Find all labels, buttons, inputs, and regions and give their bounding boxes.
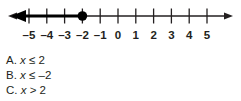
tick-label: 0 — [115, 29, 121, 41]
tick-label-group: –5 –4 –3 –2 –1 0 1 2 3 4 5 — [23, 29, 211, 41]
choice-variable: x — [20, 69, 26, 81]
tick-label: 3 — [168, 29, 174, 41]
choice-value: –2 — [39, 69, 52, 81]
tick-label: –1 — [94, 29, 107, 41]
choice-variable: x — [20, 54, 26, 66]
tick-label: –3 — [58, 29, 71, 41]
number-line-figure: –5 –4 –3 –2 –1 0 1 2 3 4 5 — [0, 0, 241, 46]
tick-label: –2 — [76, 29, 89, 41]
number-line-graphic: –5 –4 –3 –2 –1 0 1 2 3 4 5 — [0, 0, 241, 46]
choice-relation: ≤ — [29, 69, 35, 81]
tick-label: 2 — [150, 29, 156, 41]
closed-point-marker — [78, 11, 88, 21]
tick-label: –4 — [40, 29, 53, 41]
choice-letter: A. — [6, 54, 17, 66]
choice-letter: C. — [6, 84, 18, 96]
tick-label: 4 — [186, 29, 193, 41]
answer-choice-b[interactable]: B. x ≤ –2 — [6, 68, 236, 83]
choice-relation: ≤ — [29, 54, 35, 66]
tick-label: 5 — [204, 29, 211, 41]
answer-choice-c[interactable]: C. x > 2 — [6, 83, 236, 98]
axis-arrow-right-icon — [224, 12, 233, 19]
choice-letter: B. — [6, 69, 17, 81]
tick-label: –5 — [23, 29, 36, 41]
answer-choice-a[interactable]: A. x ≤ 2 — [6, 53, 236, 68]
choice-value: 2 — [40, 84, 46, 96]
tick-label: 1 — [133, 29, 140, 41]
choice-value: 2 — [39, 54, 45, 66]
choice-variable: x — [21, 84, 27, 96]
answer-choice-list: A. x ≤ 2 B. x ≤ –2 C. x > 2 — [6, 53, 236, 99]
choice-relation: > — [30, 84, 37, 96]
solution-ray-arrow-icon — [11, 10, 26, 22]
